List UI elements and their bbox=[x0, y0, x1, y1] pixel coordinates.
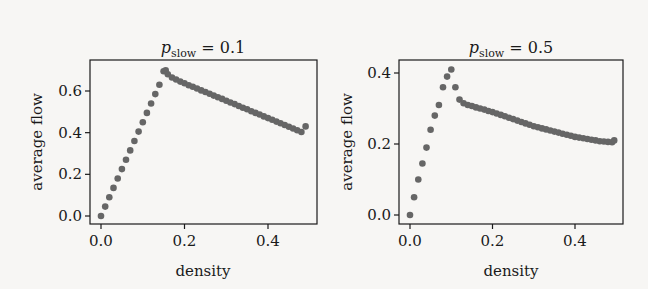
data-point bbox=[611, 137, 618, 144]
x-axis: 0.00.20.4 bbox=[89, 224, 280, 250]
x-axis-label: density bbox=[483, 262, 539, 280]
data-point bbox=[448, 66, 455, 73]
data-point bbox=[144, 110, 151, 117]
data-point bbox=[106, 194, 113, 201]
plot-frame bbox=[90, 60, 317, 224]
subplot-title: pslow = 0.5 bbox=[469, 38, 553, 60]
y-tick-label: 0.6 bbox=[58, 82, 82, 100]
y-tick-label: 0.0 bbox=[58, 207, 82, 225]
y-axis-label: average flow bbox=[338, 93, 356, 191]
x-tick-label: 0.0 bbox=[89, 232, 113, 250]
data-point bbox=[302, 123, 309, 130]
data-point bbox=[123, 157, 130, 164]
x-tick-label: 0.2 bbox=[173, 232, 197, 250]
y-axis-label: average flow bbox=[28, 93, 46, 191]
y-axis: 0.00.20.40.6 bbox=[58, 82, 90, 225]
subplot-title: pslow = 0.1 bbox=[161, 38, 245, 60]
data-point bbox=[427, 127, 434, 134]
data-point bbox=[419, 160, 426, 167]
y-axis: 0.00.20.4 bbox=[367, 64, 399, 224]
data-point bbox=[407, 212, 414, 219]
data-point bbox=[444, 73, 451, 80]
data-point bbox=[423, 144, 430, 151]
x-tick-label: 0.4 bbox=[256, 232, 280, 250]
data-point bbox=[119, 166, 126, 173]
data-point bbox=[135, 128, 142, 135]
y-tick-label: 0.2 bbox=[367, 135, 391, 153]
data-point bbox=[102, 203, 109, 210]
data-point bbox=[140, 119, 147, 126]
data-point bbox=[131, 138, 138, 145]
data-points bbox=[98, 67, 309, 219]
x-axis: 0.00.20.4 bbox=[398, 224, 587, 250]
data-point bbox=[152, 91, 159, 98]
data-point bbox=[98, 213, 105, 220]
data-point bbox=[436, 102, 443, 109]
data-point bbox=[110, 185, 117, 192]
data-point bbox=[440, 84, 447, 91]
data-point bbox=[415, 176, 422, 183]
data-point bbox=[298, 129, 305, 136]
x-tick-label: 0.0 bbox=[398, 232, 422, 250]
x-tick-label: 0.4 bbox=[563, 232, 587, 250]
data-point bbox=[114, 175, 121, 182]
subplot-pslow-0.5: pslow = 0.5 0.00.20.4 0.00.20.4 density … bbox=[338, 38, 623, 280]
data-point bbox=[432, 112, 439, 119]
x-tick-label: 0.2 bbox=[481, 232, 505, 250]
data-point bbox=[127, 147, 134, 154]
data-points bbox=[407, 66, 618, 218]
figure: pslow = 0.1 0.00.20.40.6 0.00.20.4 densi… bbox=[0, 0, 648, 289]
y-tick-label: 0.4 bbox=[367, 64, 391, 82]
data-point bbox=[148, 100, 155, 107]
data-point bbox=[156, 82, 163, 89]
y-tick-label: 0.2 bbox=[58, 165, 82, 183]
x-axis-label: density bbox=[175, 262, 231, 280]
y-tick-label: 0.4 bbox=[58, 124, 82, 142]
subplot-pslow-0.1: pslow = 0.1 0.00.20.40.6 0.00.20.4 densi… bbox=[28, 38, 317, 280]
data-point bbox=[452, 84, 459, 91]
y-tick-label: 0.0 bbox=[367, 206, 391, 224]
data-point bbox=[411, 194, 418, 201]
